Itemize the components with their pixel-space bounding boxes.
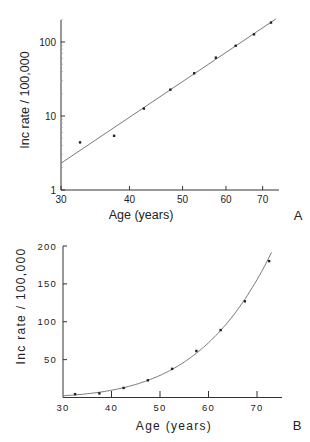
panel-a-chart: 3040506070 110100 Age (years) Inc rate /… (18, 19, 303, 223)
panel-a-x-axis-title: Age (years) (109, 208, 174, 222)
panel-b-fit-curve (63, 252, 272, 395)
panel-a-fit-line (61, 19, 276, 163)
panel-b-x-ticks: 3040506070 (57, 391, 264, 413)
y-tick-label: 10 (45, 111, 57, 122)
data-point (122, 387, 124, 389)
y-tick-label: 100 (39, 37, 56, 48)
panel-b-chart: 3040506070 50100150200 Age (years) Inc r… (14, 241, 301, 434)
panel-a-axes (61, 20, 279, 190)
x-tick-label: 70 (257, 194, 269, 205)
data-point (193, 72, 195, 74)
y-tick-label: 50 (44, 354, 57, 365)
data-point (219, 329, 221, 331)
panel-a-x-ticks: 3040506070 (55, 186, 268, 205)
data-point (143, 107, 145, 109)
panel-b-y-axis-title: Inc rate / 100,000 (14, 248, 28, 365)
data-point (253, 33, 255, 35)
y-tick-label: 200 (38, 241, 57, 252)
data-point (98, 392, 100, 394)
data-point (169, 88, 171, 90)
x-tick-label: 50 (177, 194, 189, 205)
data-point (244, 300, 246, 302)
y-tick-label: 100 (38, 316, 57, 327)
data-point (215, 56, 217, 58)
x-tick-label: 30 (55, 194, 67, 205)
data-point (171, 368, 173, 370)
y-tick-label: 150 (38, 278, 57, 289)
data-point (270, 21, 272, 23)
panel-a-y-axis-title: Inc rate / 100,000 (18, 51, 32, 148)
panel-b-data-points (74, 260, 270, 395)
data-point (79, 141, 81, 143)
x-tick-label: 40 (124, 194, 136, 205)
panel-b-axes (63, 246, 282, 398)
data-point (234, 45, 236, 47)
panel-a-data-points (79, 21, 272, 143)
data-point (268, 260, 270, 262)
y-tick-label: 1 (50, 185, 56, 196)
data-point (74, 393, 76, 395)
figure: 3040506070 110100 Age (years) Inc rate /… (0, 0, 310, 442)
x-tick-label: 60 (202, 402, 215, 413)
x-tick-label: 40 (105, 402, 118, 413)
x-tick-label: 30 (57, 402, 70, 413)
data-point (195, 350, 197, 352)
panel-b-x-axis-title: Age (years) (136, 419, 212, 433)
x-tick-label: 50 (154, 402, 167, 413)
data-point (113, 135, 115, 137)
panel-a-label: A (294, 208, 303, 223)
panel-b-label: B (293, 418, 302, 433)
x-tick-label: 60 (220, 194, 232, 205)
x-tick-label: 70 (251, 402, 264, 413)
data-point (147, 379, 149, 381)
